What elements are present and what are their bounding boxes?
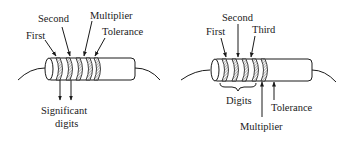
four-band-resistor: First Second Multiplier Tolerance Signif… bbox=[18, 10, 160, 129]
lead-wire-left bbox=[181, 70, 210, 80]
label-multiplier: Multiplier bbox=[90, 10, 133, 21]
label-second: Second bbox=[38, 13, 70, 24]
lead-wire-right bbox=[312, 70, 336, 82]
label-third: Third bbox=[252, 24, 276, 35]
digits-brace bbox=[220, 83, 256, 91]
arrow-first bbox=[45, 40, 56, 56]
label-first: First bbox=[206, 26, 225, 37]
resistor-diagrams: First Second Multiplier Tolerance Signif… bbox=[0, 0, 355, 146]
label-first: First bbox=[26, 30, 45, 41]
label-multiplier: Multiplier bbox=[240, 121, 283, 132]
arrow-tolerance bbox=[95, 38, 105, 56]
label-tolerance: Tolerance bbox=[102, 26, 144, 37]
lead-wire-left bbox=[18, 68, 45, 80]
arrow-third bbox=[251, 36, 255, 57]
arrow-second bbox=[62, 27, 70, 56]
label-digits: Digits bbox=[226, 95, 252, 106]
arrow-first bbox=[221, 38, 226, 57]
arrow-multiplier bbox=[84, 21, 92, 56]
resistor-end-cap bbox=[45, 58, 53, 80]
lead-wire-right bbox=[135, 68, 160, 80]
label-digits: digits bbox=[55, 118, 78, 129]
label-tolerance: Tolerance bbox=[271, 102, 313, 113]
label-significant: Significant bbox=[41, 105, 87, 116]
resistor-end-cap bbox=[211, 59, 219, 81]
label-second: Second bbox=[222, 12, 254, 23]
five-band-resistor: First Second Third Digits Tolerance Mult… bbox=[181, 12, 336, 132]
